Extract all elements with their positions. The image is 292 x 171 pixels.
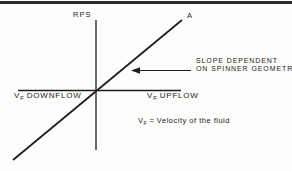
upflow-subscript: F — [153, 95, 157, 101]
curve-label-a: A — [187, 12, 193, 21]
annotation-arrowhead-icon — [131, 67, 140, 74]
upflow-text: UPFLOW — [160, 91, 199, 100]
spinner-response-figure: RPS A SLOPE DEPENDENT ON SPINNER GEOMETR… — [0, 0, 292, 171]
slope-annotation-line1: SLOPE DEPENDENT — [196, 57, 292, 65]
slope-annotation: SLOPE DEPENDENT ON SPINNER GEOMETRY — [196, 57, 292, 74]
x-axis-label-downflow: VF DOWNFLOW — [14, 91, 82, 101]
x-axis-label-upflow: VF UPFLOW — [147, 91, 199, 101]
legend-subscript: F — [144, 120, 147, 126]
legend-definition: = Velocity of the fluid — [149, 116, 230, 125]
plot-canvas — [0, 0, 292, 171]
downflow-subscript: F — [20, 95, 24, 101]
downflow-text: DOWNFLOW — [27, 91, 82, 100]
y-axis-label: RPS — [73, 11, 92, 20]
slope-annotation-line2: ON SPINNER GEOMETRY — [196, 65, 292, 73]
velocity-legend: VF = Velocity of the fluid — [138, 117, 230, 126]
